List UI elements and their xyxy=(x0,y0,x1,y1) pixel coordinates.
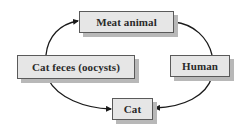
node-label-meat-animal: Meat animal xyxy=(96,16,157,28)
arrow-human-to-cat xyxy=(155,77,212,108)
node-meat-animal: Meat animal xyxy=(79,11,174,33)
node-box: Cat feces (oocysts) xyxy=(17,55,135,79)
node-box: Meat animal xyxy=(79,11,174,33)
arrow-feces-to-cat xyxy=(48,79,111,109)
node-cat: Cat xyxy=(112,98,153,120)
node-label-cat: Cat xyxy=(124,103,141,115)
node-human: Human xyxy=(170,55,230,77)
node-label-human: Human xyxy=(182,60,218,72)
connector-meat-to-human xyxy=(174,22,212,55)
node-box: Human xyxy=(170,55,230,77)
node-label-cat-feces: Cat feces (oocysts) xyxy=(32,61,120,73)
diagram-canvas: Meat animal Cat feces (oocysts) Human Ca… xyxy=(0,0,244,133)
arrow-feces-to-meat xyxy=(46,21,78,55)
node-box: Cat xyxy=(112,98,153,120)
node-cat-feces: Cat feces (oocysts) xyxy=(17,55,135,79)
